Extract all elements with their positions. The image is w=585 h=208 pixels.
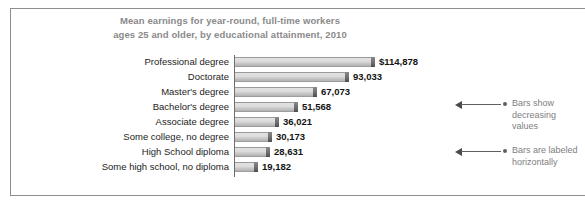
category-label: Some high school, no diploma xyxy=(29,161,229,173)
bar-fill xyxy=(235,132,272,142)
left-arrow-icon xyxy=(455,100,507,109)
bar-end-cap xyxy=(266,147,270,157)
bar-associate-degree xyxy=(235,117,279,127)
bar-masters-degree xyxy=(235,87,317,97)
category-label: High School diploma xyxy=(29,146,229,158)
bar-end-cap xyxy=(294,102,298,112)
arrow-shaft xyxy=(461,151,501,152)
value-label: 93,033 xyxy=(353,71,382,83)
annotation-text: Bars show decreasing values xyxy=(512,98,585,133)
category-label: Bachelor's degree xyxy=(29,101,229,113)
bar-row: Some high school, no diploma 19,182 xyxy=(22,160,422,175)
annotation-line-1: Bars show xyxy=(512,98,585,110)
value-label: 67,073 xyxy=(321,86,350,98)
category-label: Master's degree xyxy=(29,86,229,98)
value-label: 30,173 xyxy=(276,131,305,143)
bar-end-cap xyxy=(268,132,272,142)
plot-area: Professional degree $114,878 Doctorate 9… xyxy=(22,55,422,183)
bar-row: Professional degree $114,878 xyxy=(22,55,422,70)
bar-end-cap xyxy=(275,117,279,127)
bar-fill xyxy=(235,102,298,112)
bar-bachelors-degree xyxy=(235,102,298,112)
left-arrow-icon xyxy=(455,147,507,156)
bar-fill xyxy=(235,72,349,82)
annotation-line-2: decreasing xyxy=(512,110,585,122)
arrow-dot xyxy=(503,149,507,153)
annotation-text: Bars are labeled horizontally xyxy=(512,145,585,168)
chart-figure: Mean earnings for year-round, full-time … xyxy=(0,0,585,208)
bar-fill xyxy=(235,57,375,67)
bar-row: Doctorate 93,033 xyxy=(22,70,422,85)
chart-title-line-2: ages 25 and older, by educational attain… xyxy=(60,28,400,42)
category-label: Some college, no degree xyxy=(29,131,229,143)
annotation-line-2: horizontally xyxy=(512,157,585,169)
value-label: 19,182 xyxy=(262,161,291,173)
annotation-line-1: Bars are labeled xyxy=(512,145,585,157)
bar-row: High School diploma 28,631 xyxy=(22,145,422,160)
chart-title-line-1: Mean earnings for year-round, full-time … xyxy=(60,14,400,28)
value-label: $114,878 xyxy=(379,56,418,68)
category-label: Associate degree xyxy=(29,116,229,128)
bar-row: Master's degree 67,073 xyxy=(22,85,422,100)
bar-fill xyxy=(235,117,279,127)
arrow-dot xyxy=(503,102,507,106)
bar-doctorate xyxy=(235,72,349,82)
chart-title: Mean earnings for year-round, full-time … xyxy=(60,14,400,42)
category-label: Professional degree xyxy=(29,56,229,68)
bar-fill xyxy=(235,87,317,97)
bar-professional-degree xyxy=(235,57,375,67)
value-label: 28,631 xyxy=(274,146,303,158)
bar-end-cap xyxy=(254,162,258,172)
value-label: 36,021 xyxy=(283,116,312,128)
bar-some-high-school-no-diploma xyxy=(235,162,258,172)
category-label: Doctorate xyxy=(29,71,229,83)
bar-row: Some college, no degree 30,173 xyxy=(22,130,422,145)
bar-row: Associate degree 36,021 xyxy=(22,115,422,130)
annotation-line-3: values xyxy=(512,121,585,133)
bar-end-cap xyxy=(313,87,317,97)
bar-end-cap xyxy=(345,72,349,82)
value-label: 51,568 xyxy=(302,101,331,113)
bar-end-cap xyxy=(371,57,375,67)
bar-fill xyxy=(235,147,270,157)
arrow-shaft xyxy=(461,104,501,105)
bar-high-school-diploma xyxy=(235,147,270,157)
bar-some-college-no-degree xyxy=(235,132,272,142)
bar-row: Bachelor's degree 51,568 xyxy=(22,100,422,115)
